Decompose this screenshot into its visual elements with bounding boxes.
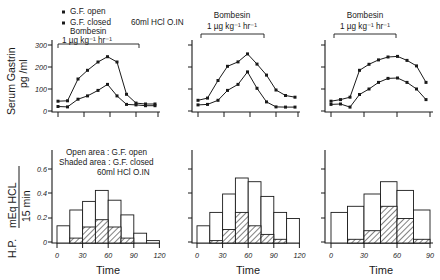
bot1-xtick-labels: 0 30 60 90 120 (55, 251, 165, 260)
bot1-xlabel: Time (96, 264, 120, 276)
top1-xticks (58, 112, 158, 117)
bot1-xtick-60: 60 (104, 251, 112, 260)
bot1-xtick-30: 30 (79, 251, 87, 260)
bot1-xtick-0: 0 (55, 251, 59, 260)
top-panel-2: Bombesin 1 µg kg⁻¹ hr⁻¹ Bombesin 1 µg kg… (188, 11, 300, 117)
panel3-infusion-bracket (334, 34, 396, 38)
legend-marker-closed (62, 22, 65, 25)
bottom-panel-2: 0 30 60 90 120 Time (188, 150, 305, 276)
panel2-infusion-bracket (201, 34, 264, 38)
bot1-ytick-02: 0.2 (37, 213, 47, 222)
top1-closed-markers (57, 55, 157, 105)
top1-ytick-300: 300 (35, 41, 47, 50)
panel2-drug-name-visible: Bombesin (214, 11, 251, 20)
serum-gastrin-and-acid-output-figure: Serum Gastrin pg /ml H.P. mEq HCL 15 min… (0, 0, 440, 280)
bot1-ytick-04: 0.4 (37, 189, 47, 198)
bot3-xlabel: Time (369, 264, 393, 276)
bottom-ylabel-numerator: mEq HCL (6, 182, 18, 228)
panel2-drug-dose: 1 µg kg⁻¹ hr⁻¹ (207, 22, 257, 31)
bot2-xticks (197, 243, 299, 248)
bot3-xtick-30: 30 (360, 251, 368, 260)
panel3-drug-dose: 1 µg kg⁻¹ hr⁻¹ (340, 22, 390, 31)
top-panel-1: 300 200 100 0 (34, 40, 160, 117)
top1-ytick-100: 100 (35, 85, 47, 94)
bottom-panel-3: 0 30 60 90 Time (321, 150, 434, 276)
top1-closed-line (58, 57, 155, 104)
bot2-xlabel: Time (236, 264, 260, 276)
top2-closed-markers (197, 52, 297, 101)
bot1-ytick-0: 0 (43, 238, 47, 247)
top1-ytick-200: 200 (34, 63, 47, 72)
legend-bottom-acid: 60ml HCl O.IN (97, 168, 150, 177)
bot3-xtick-labels: 0 30 60 90 (329, 251, 434, 260)
top3-open-markers (330, 77, 428, 109)
bot1-xticks (57, 243, 159, 248)
top3-closed-line (331, 56, 426, 101)
top2-closed-line (198, 54, 295, 100)
bot3-xtick-60: 60 (393, 251, 401, 260)
bottom-ylabel-denominator: 15 min (20, 190, 32, 222)
bot3-xtick-90: 90 (426, 251, 434, 260)
top1-ytick-0: 0 (43, 107, 47, 116)
top-ylabel-main: Serum Gastrin (5, 47, 17, 115)
top-panel-3: Bombesin 1 µg kg⁻¹ hr⁻¹ (321, 11, 433, 117)
bot1-xtick-90: 90 (130, 251, 138, 260)
top3-xticks (331, 112, 430, 117)
legend-shaded-area: Shaded area : G.F. closed (59, 158, 154, 167)
bot2-xtick-0: 0 (195, 251, 199, 260)
legend-label-open: G.F. open (70, 7, 106, 16)
bot1-xtick-120: 120 (153, 251, 165, 260)
legend-label-closed: G.F. closed (70, 18, 111, 27)
bot2-xtick-labels: 0 30 60 90 120 (195, 251, 305, 260)
bottom-left-legend: Open area : G.F. open Shaded area : G.F.… (59, 148, 154, 177)
top-ylabel-unit: pg /ml (17, 59, 29, 88)
top-row-ylabel: Serum Gastrin pg /ml (5, 47, 29, 115)
bot3-xticks (331, 243, 430, 248)
figure-root: Serum Gastrin pg /ml H.P. mEq HCL 15 min… (0, 0, 440, 280)
bot3-xtick-0: 0 (329, 251, 333, 260)
bottom-row-ylabel: H.P. mEq HCL 15 min (6, 166, 32, 258)
top2-xticks (198, 112, 298, 117)
bot2-xtick-60: 60 (244, 251, 252, 260)
legend-open-area: Open area : G.F. open (66, 148, 147, 157)
panel3-drug-name: Bombesin (347, 11, 384, 20)
bot1-ytick-06: 0.6 (37, 165, 47, 174)
bot2-xtick-90: 90 (270, 251, 278, 260)
bottom-ylabel-head: H.P. (6, 239, 18, 258)
legend-label-acid: 60ml HCl O.IN (131, 18, 184, 27)
bot2-xtick-120: 120 (293, 251, 305, 260)
legend-marker-open (62, 11, 65, 14)
panel1-drug-name: Bombesin (70, 27, 107, 36)
top3-closed-markers (330, 55, 428, 103)
bot2-xtick-30: 30 (219, 251, 227, 260)
top-left-legend: G.F. open G.F. closed 60ml HCl O.IN Bomb… (62, 7, 184, 45)
